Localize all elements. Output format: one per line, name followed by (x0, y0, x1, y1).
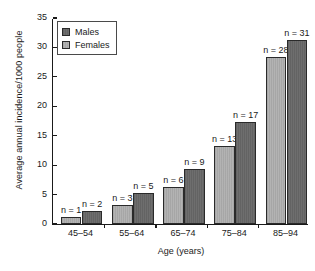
bar-value-label: n = 13 (212, 134, 237, 144)
y-tick-mark (53, 194, 57, 195)
y-tick-label: 20 (37, 100, 47, 111)
y-tick-mark (53, 135, 57, 136)
y-tick-mark (53, 165, 57, 166)
legend-swatch-icon (62, 28, 70, 36)
y-tick-label: 15 (37, 130, 47, 141)
y-tick-label: 10 (37, 159, 47, 170)
bar (133, 193, 154, 224)
bar (214, 146, 235, 224)
y-tick-label: 35 (37, 12, 47, 23)
y-tick-mark (53, 223, 57, 224)
bar (184, 169, 205, 224)
y-tick-mark (53, 17, 57, 18)
bar (235, 122, 256, 224)
chart-legend: MalesFemales (57, 21, 117, 55)
legend-label: Females (75, 40, 110, 50)
bar-value-label: n = 6 (163, 175, 183, 185)
y-tick-mark (53, 76, 57, 77)
bar (266, 57, 287, 224)
legend-swatch-icon (62, 41, 70, 49)
bar-value-label: n = 3 (112, 193, 132, 203)
bar (112, 205, 133, 224)
bar (287, 40, 308, 224)
y-axis-title: Average annual incidence/1000 people (14, 5, 24, 215)
legend-item: Females (62, 38, 110, 51)
bar (82, 211, 103, 224)
y-tick-label: 25 (37, 71, 47, 82)
x-axis-title: Age (years) (52, 246, 310, 256)
bar-value-label: n = 28 (263, 45, 288, 55)
bar (163, 187, 184, 224)
bar (61, 217, 82, 224)
bar-value-label: n = 31 (284, 28, 309, 38)
bar-value-label: n = 9 (184, 157, 204, 167)
y-tick-label: 30 (37, 41, 47, 52)
bar-value-label: n = 5 (133, 181, 153, 191)
bar-value-label: n = 2 (82, 199, 102, 209)
y-tick-label: 0 (42, 218, 47, 229)
x-tick-label: 85–94 (255, 228, 315, 238)
y-tick-label: 5 (42, 189, 47, 200)
legend-item: Males (62, 25, 110, 38)
bar-value-label: n = 1 (61, 205, 81, 215)
bar-value-label: n = 17 (233, 110, 258, 120)
legend-label: Males (75, 27, 99, 37)
y-tick-mark (53, 106, 57, 107)
chart-figure: Average annual incidence/1000 people Age… (0, 0, 315, 271)
